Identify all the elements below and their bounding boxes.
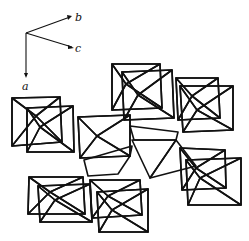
oct-bottom-left-back bbox=[28, 177, 85, 214]
oct-mid-left bbox=[78, 115, 130, 158]
axis-c-line bbox=[26, 33, 72, 47]
bottom-facet bbox=[12, 116, 62, 146]
axis-a-arrowhead-icon bbox=[24, 73, 28, 78]
top-facet bbox=[186, 158, 241, 178]
bottom-facet bbox=[188, 178, 241, 205]
hatched-left-facet bbox=[84, 146, 132, 176]
axis-label-b: b bbox=[75, 11, 82, 24]
oct-top-right bbox=[180, 86, 233, 132]
octahedron-outline bbox=[27, 106, 74, 152]
right-facet bbox=[97, 115, 130, 156]
axis-b-arrowhead-icon bbox=[67, 15, 72, 20]
axis-label-c: c bbox=[75, 42, 81, 55]
left-facet bbox=[90, 180, 108, 218]
axis-b-line bbox=[26, 17, 70, 33]
axis-label-a: a bbox=[22, 80, 29, 93]
axis-c-arrowhead-icon bbox=[68, 45, 74, 49]
left-facet bbox=[12, 98, 36, 146]
oct-top-center bbox=[122, 70, 174, 120]
left-facet bbox=[78, 117, 97, 158]
right-facet bbox=[112, 189, 148, 232]
hatched-top-facet bbox=[130, 126, 178, 140]
right-facet bbox=[40, 106, 74, 152]
top-facet bbox=[27, 106, 73, 127]
crystal-structure-figure: a b c bbox=[0, 0, 249, 241]
axis-triad: a b c bbox=[22, 11, 82, 93]
oct-top-left-front bbox=[27, 106, 74, 152]
right-facet bbox=[196, 150, 226, 188]
right-facet bbox=[138, 70, 174, 118]
right-facet bbox=[197, 86, 233, 130]
bottom-facet bbox=[28, 192, 85, 214]
